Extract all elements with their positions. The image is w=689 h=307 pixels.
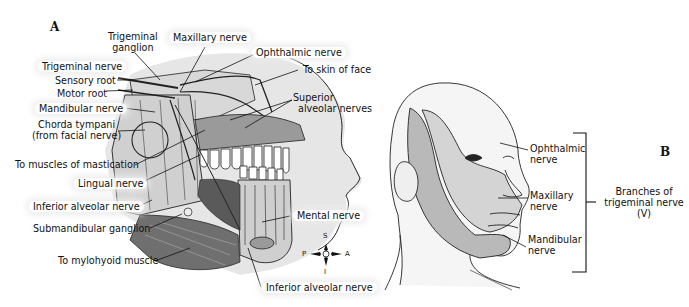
label-lingual-nerve: Lingual nerve [74, 178, 147, 189]
label-maxillary-nerve: Maxillary nerve [169, 32, 251, 43]
label-chorda-tympani: Chorda tympani (from facial nerve) [32, 119, 121, 141]
panel-b-head [385, 83, 529, 290]
label-ophthalmic-nerve: Ophthalmic nerve [252, 47, 346, 58]
compass-posterior: P [302, 250, 306, 258]
label-to-mylohyoid-muscle: To mylohyoid muscle [58, 255, 158, 266]
compass-inferior: I [324, 268, 326, 276]
label-trigeminal-nerve: Trigeminal nerve [38, 61, 126, 72]
label-sensory-root: Sensory root [55, 75, 116, 86]
label-to-skin-of-face: To skin of face [303, 64, 371, 75]
label-superior-alveolar-nerves: Superior alveolar nerves [293, 92, 372, 114]
panel-a-letter: A [50, 20, 59, 34]
label-b-ophthalmic-nerve: Ophthalmic nerve [530, 143, 585, 165]
label-inferior-alveolar-nerve-left: Inferior alveolar nerve [29, 201, 144, 212]
label-branches-of-trigeminal-nerve: Branches of trigeminal nerve (V) [600, 186, 688, 219]
label-mandibular-nerve: Mandibular nerve [35, 103, 127, 114]
label-b-maxillary-nerve: Maxillary nerve [530, 190, 573, 212]
label-inferior-alveolar-nerve-bottom: Inferior alveolar nerve [262, 282, 377, 293]
label-motor-root: Motor root [57, 88, 107, 99]
panel-a-head-dissection [105, 53, 362, 275]
compass-superior: S [323, 232, 327, 240]
label-to-muscles-of-mastication: To muscles of mastication [15, 159, 139, 170]
label-mental-nerve: Mental nerve [293, 210, 364, 221]
label-submandibular-ganglion: Submandibular ganglion [33, 223, 150, 234]
label-trigeminal-ganglion: Trigeminal ganglion [108, 31, 158, 53]
panel-b-letter: B [660, 145, 670, 159]
label-b-mandibular-nerve: Mandibular nerve [528, 234, 582, 256]
compass-anterior: A [345, 250, 350, 258]
